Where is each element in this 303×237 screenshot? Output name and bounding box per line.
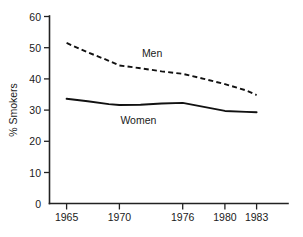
y-axis-ticks xyxy=(44,17,50,173)
axes-group xyxy=(50,16,289,204)
series-line-women xyxy=(67,99,257,112)
series-label-women: Women xyxy=(120,114,156,126)
chart-plot-area: 60 50 40 30 20 10 0 1965 1970 1976 1980 … xyxy=(0,0,303,237)
series-label-men: Men xyxy=(142,47,163,59)
y-tick-label-10: 10 xyxy=(29,167,41,179)
y-tick-label-50: 50 xyxy=(29,42,41,54)
y-tick-label-40: 40 xyxy=(29,73,41,85)
y-tick-label-30: 30 xyxy=(29,104,41,116)
smoking-prevalence-chart: 60 50 40 30 20 10 0 1965 1970 1976 1980 … xyxy=(0,0,303,237)
x-tick-label-1983: 1983 xyxy=(245,211,269,223)
y-tick-label-60: 60 xyxy=(29,11,41,23)
x-axis-tick-labels: 1965 1970 1976 1980 1983 xyxy=(55,211,269,223)
y-tick-label-0: 0 xyxy=(35,198,41,210)
x-tick-label-1980: 1980 xyxy=(213,211,237,223)
y-tick-label-20: 20 xyxy=(29,135,41,147)
y-axis-title: % Smokers xyxy=(7,83,19,137)
x-tick-label-1970: 1970 xyxy=(108,211,132,223)
x-axis-ticks xyxy=(67,204,257,210)
x-tick-label-1965: 1965 xyxy=(55,211,79,223)
x-tick-label-1976: 1976 xyxy=(171,211,195,223)
y-axis-tick-labels: 60 50 40 30 20 10 0 xyxy=(29,11,41,210)
